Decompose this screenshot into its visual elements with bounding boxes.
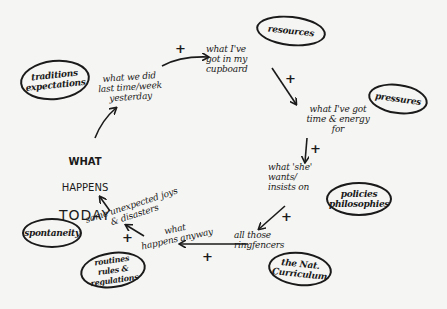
step-last-time: what we did last time/week yesterday xyxy=(91,69,169,104)
plus-sign-3: + xyxy=(310,142,321,155)
cycle-diagram: WHAT HAPPENS TODAY what I've got in my c… xyxy=(0,0,447,309)
plus-sign-4: + xyxy=(281,210,292,223)
step-ringfencers: all those ringfencers xyxy=(234,230,294,250)
step-she-wants: what 'she' wants/ insists on xyxy=(268,162,328,192)
arrow-center-to-last-time xyxy=(95,108,116,138)
factor-policies: policies philosophies xyxy=(326,182,392,216)
step-cupboard: what I've got in my cupboard xyxy=(206,44,266,74)
center-line-2: HAPPENS xyxy=(50,181,120,194)
arrow-time-energy-to-she-wants xyxy=(305,138,307,162)
factor-spontaneity: spontaneity xyxy=(22,218,82,248)
step-time-energy: what I've got time & energy for xyxy=(298,104,378,134)
plus-sign-2: + xyxy=(285,72,296,85)
plus-sign-5: + xyxy=(202,250,213,263)
plus-sign-6: + xyxy=(122,231,133,244)
plus-sign-1: + xyxy=(175,42,186,55)
center-line-1: WHAT xyxy=(50,155,120,168)
arrow-last-time-to-cupboard xyxy=(162,57,208,66)
